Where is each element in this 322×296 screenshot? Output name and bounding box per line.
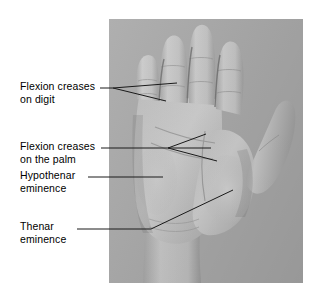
label-flexion-creases-on-digit: Flexion creases on digit — [20, 80, 95, 105]
hand-photograph — [109, 19, 303, 283]
label-hypothenar-eminence: Hypothenar eminence — [20, 169, 75, 194]
anatomy-figure: Flexion creases on digit Flexion creases… — [0, 0, 322, 296]
label-thenar-eminence: Thenar eminence — [20, 220, 66, 245]
label-flexion-creases-on-the-palm: Flexion creases on the palm — [20, 140, 95, 165]
hand-illustration — [109, 19, 303, 283]
